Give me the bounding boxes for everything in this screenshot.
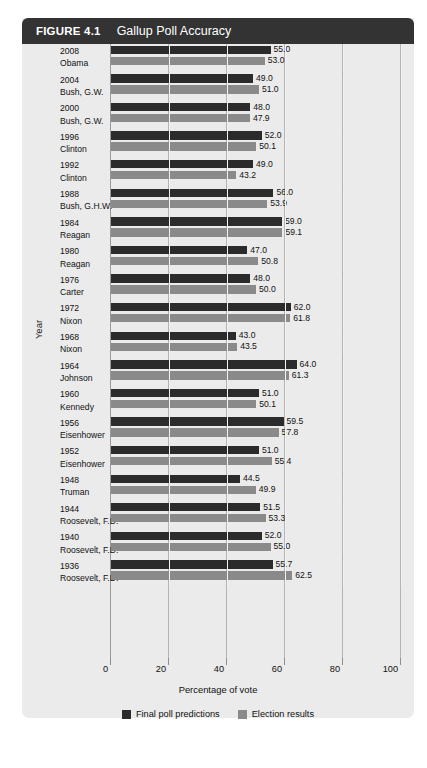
gridline-overlay bbox=[227, 560, 228, 587]
gridline-overlay bbox=[285, 131, 286, 158]
result-value: 53.0 bbox=[268, 56, 285, 64]
result-bar bbox=[111, 571, 292, 579]
category-label: 1960Kennedy bbox=[60, 388, 112, 413]
gridline-overlay bbox=[169, 159, 170, 186]
x-tick-label: 20 bbox=[156, 664, 168, 674]
candidate-label: Kennedy bbox=[60, 401, 112, 413]
x-tick-label: 60 bbox=[272, 664, 284, 674]
bars: 56.053.9 bbox=[111, 188, 411, 215]
gridline-overlay bbox=[169, 45, 170, 72]
bars: 51.050.1 bbox=[111, 388, 411, 415]
gridline-overlay bbox=[401, 474, 402, 501]
gridline-overlay bbox=[401, 531, 402, 558]
bar-group: 2004Bush, G.W.49.051.0 bbox=[22, 73, 414, 102]
x-axis: 020406080100 bbox=[110, 658, 400, 678]
bar-group: 1992Clinton49.043.2 bbox=[22, 158, 414, 187]
year-label: 1992 bbox=[60, 159, 112, 171]
prediction-bar bbox=[111, 360, 297, 368]
gridline-overlay bbox=[285, 245, 286, 272]
prediction-value: 48.0 bbox=[253, 103, 270, 111]
gridline-overlay bbox=[227, 45, 228, 72]
year-label: 1984 bbox=[60, 217, 112, 229]
bars: 59.059.1 bbox=[111, 217, 411, 244]
year-label: 2000 bbox=[60, 102, 112, 114]
gridline-overlay bbox=[169, 531, 170, 558]
bars: 49.051.0 bbox=[111, 74, 411, 101]
bar-rows: 2008Obama55.053.02004Bush, G.W.49.051.02… bbox=[22, 44, 414, 587]
gridline-overlay bbox=[343, 302, 344, 329]
category-label: 2004Bush, G.W. bbox=[60, 74, 112, 99]
prediction-value: 55.7 bbox=[276, 560, 293, 568]
prediction-bar bbox=[111, 274, 250, 282]
prediction-value: 55.0 bbox=[274, 45, 291, 53]
candidate-label: Johnson bbox=[60, 372, 112, 384]
gridline-overlay bbox=[343, 445, 344, 472]
gridline-overlay bbox=[227, 217, 228, 244]
bar-group: 2008Obama55.053.0 bbox=[22, 44, 414, 73]
bars: 52.050.1 bbox=[111, 131, 411, 158]
result-bar bbox=[111, 514, 266, 522]
year-label: 1944 bbox=[60, 503, 112, 515]
gridline-overlay bbox=[227, 417, 228, 444]
gridline-overlay bbox=[169, 445, 170, 472]
figure-container: FIGURE 4.1 Gallup Poll Accuracy Year 200… bbox=[22, 18, 414, 718]
result-bar bbox=[111, 57, 265, 65]
prediction-value: 52.0 bbox=[265, 531, 282, 539]
bar-group: 2000Bush, G.W.48.047.9 bbox=[22, 101, 414, 130]
legend-item: Election results bbox=[238, 709, 314, 719]
chart-plot-area: Year 2008Obama55.053.02004Bush, G.W.49.0… bbox=[22, 44, 414, 718]
gridline-overlay bbox=[227, 159, 228, 186]
category-label: 1996Clinton bbox=[60, 131, 112, 156]
gridline-overlay bbox=[343, 245, 344, 272]
category-label: 1936Roosevelt, F.D. bbox=[60, 560, 112, 585]
x-tick bbox=[168, 658, 169, 665]
gridline-overlay bbox=[285, 302, 286, 329]
x-tick-label: 0 bbox=[103, 664, 110, 674]
candidate-label: Nixon bbox=[60, 343, 112, 355]
bars: 43.043.5 bbox=[111, 331, 411, 358]
candidate-label: Roosevelt, F.D. bbox=[60, 515, 112, 527]
gridline-overlay bbox=[343, 102, 344, 129]
gridline-overlay bbox=[227, 388, 228, 415]
gridline-overlay bbox=[343, 131, 344, 158]
gridline-overlay bbox=[169, 74, 170, 101]
bar-group: 1996Clinton52.050.1 bbox=[22, 130, 414, 159]
category-label: 1980Reagan bbox=[60, 245, 112, 270]
candidate-label: Roosevelt, F.D. bbox=[60, 544, 112, 556]
year-label: 1936 bbox=[60, 560, 112, 572]
prediction-value: 49.0 bbox=[256, 74, 273, 82]
gridline-overlay bbox=[285, 217, 286, 244]
gridline-overlay bbox=[285, 274, 286, 301]
bars: 62.061.8 bbox=[111, 302, 411, 329]
candidate-label: Obama bbox=[60, 57, 112, 69]
gridline-overlay bbox=[343, 188, 344, 215]
x-tick bbox=[400, 658, 401, 665]
figure-header: FIGURE 4.1 Gallup Poll Accuracy bbox=[22, 18, 414, 44]
prediction-bar bbox=[111, 475, 240, 483]
result-value: 59.1 bbox=[285, 228, 302, 236]
legend-label: Final poll predictions bbox=[136, 709, 220, 719]
year-label: 1980 bbox=[60, 245, 112, 257]
candidate-label: Eisenhower bbox=[60, 458, 112, 470]
bars: 48.047.9 bbox=[111, 102, 411, 129]
year-label: 1956 bbox=[60, 417, 112, 429]
prediction-bar bbox=[111, 46, 271, 54]
bars: 51.055.4 bbox=[111, 445, 411, 472]
gridline-overlay bbox=[401, 74, 402, 101]
gridline-overlay bbox=[343, 360, 344, 387]
result-value: 43.2 bbox=[239, 171, 256, 179]
gridline-overlay bbox=[285, 159, 286, 186]
result-value: 55.4 bbox=[275, 457, 292, 465]
gridline-overlay bbox=[169, 217, 170, 244]
result-bar bbox=[111, 171, 236, 179]
prediction-bar bbox=[111, 189, 273, 197]
gridline-overlay bbox=[285, 74, 286, 101]
bar-group: 1980Reagan47.050.8 bbox=[22, 244, 414, 273]
gridline-overlay bbox=[169, 417, 170, 444]
year-label: 1960 bbox=[60, 388, 112, 400]
result-value: 49.9 bbox=[259, 485, 276, 493]
gridline-overlay bbox=[401, 274, 402, 301]
bars: 49.043.2 bbox=[111, 159, 411, 186]
candidate-label: Clinton bbox=[60, 143, 112, 155]
result-bar bbox=[111, 543, 271, 551]
